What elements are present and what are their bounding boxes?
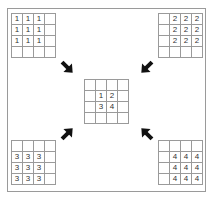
grid-cell xyxy=(170,141,181,152)
grid-cell xyxy=(107,113,118,124)
grid-cell xyxy=(12,141,23,152)
grid-cell: 1 xyxy=(12,14,23,25)
grid-cell xyxy=(192,47,203,58)
grid-cell: 4 xyxy=(170,163,181,174)
grid-cell xyxy=(181,141,192,152)
grid-cell xyxy=(45,152,56,163)
arrow-up-left-icon xyxy=(138,125,156,143)
grid-cell: 3 xyxy=(23,163,34,174)
grid-cell xyxy=(159,36,170,47)
grid-cell xyxy=(45,14,56,25)
grid-cell xyxy=(96,113,107,124)
grid-cell: 3 xyxy=(12,163,23,174)
grid-cell: 2 xyxy=(170,14,181,25)
grid-cell: 1 xyxy=(96,91,107,102)
grid-cell: 2 xyxy=(181,25,192,36)
grid-cell: 4 xyxy=(192,174,203,185)
arrow-up-right-icon xyxy=(58,125,76,143)
grid-top-left: 111111111 xyxy=(11,13,56,58)
grid-cell xyxy=(85,113,96,124)
grid-cell xyxy=(192,141,203,152)
grid-cell xyxy=(159,25,170,36)
grid-cell: 3 xyxy=(12,152,23,163)
grid-cell xyxy=(159,152,170,163)
grid-cell: 2 xyxy=(181,14,192,25)
grid-cell: 2 xyxy=(192,25,203,36)
grid-cell: 2 xyxy=(107,91,118,102)
grid-cell xyxy=(118,113,129,124)
grid-bottom-left: 333333333 xyxy=(11,140,56,185)
grid-cell: 2 xyxy=(170,36,181,47)
grid-cell xyxy=(45,47,56,58)
grid-cell: 1 xyxy=(23,14,34,25)
grid-cell: 3 xyxy=(23,152,34,163)
arrow-down-left-icon xyxy=(138,58,156,76)
grid-cell xyxy=(45,36,56,47)
grid-cell: 3 xyxy=(34,174,45,185)
grid-top-right: 222222222 xyxy=(158,13,203,58)
grid-cell xyxy=(96,80,107,91)
grid-cell xyxy=(45,174,56,185)
grid-cell: 4 xyxy=(170,174,181,185)
grid-cell xyxy=(159,47,170,58)
grid-cell: 3 xyxy=(34,163,45,174)
grid-cell: 3 xyxy=(12,174,23,185)
arrow-down-right-icon xyxy=(58,58,76,76)
grid-cell xyxy=(12,47,23,58)
grid-cell: 2 xyxy=(192,14,203,25)
grid-cell xyxy=(159,163,170,174)
grid-cell xyxy=(23,141,34,152)
grid-cell: 1 xyxy=(34,36,45,47)
grid-cell: 4 xyxy=(107,102,118,113)
grid-cell xyxy=(159,141,170,152)
grid-cell: 3 xyxy=(96,102,107,113)
grid-cell: 2 xyxy=(192,36,203,47)
grid-cell xyxy=(45,163,56,174)
grid-cell xyxy=(23,47,34,58)
grid-cell xyxy=(45,141,56,152)
grid-cell xyxy=(85,91,96,102)
grid-cell: 2 xyxy=(170,25,181,36)
grid-cell xyxy=(107,80,118,91)
grid-cell: 4 xyxy=(181,174,192,185)
grid-cell xyxy=(170,47,181,58)
grid-cell: 1 xyxy=(23,25,34,36)
grid-cell: 1 xyxy=(23,36,34,47)
grid-cell: 3 xyxy=(23,174,34,185)
grid-cell: 3 xyxy=(34,152,45,163)
grid-cell: 1 xyxy=(34,14,45,25)
grid-cell xyxy=(34,141,45,152)
grid-cell xyxy=(118,102,129,113)
grid-cell xyxy=(85,80,96,91)
grid-cell xyxy=(34,47,45,58)
grid-center: 1234 xyxy=(84,79,129,124)
grid-cell: 1 xyxy=(12,36,23,47)
grid-cell xyxy=(45,25,56,36)
grid-bottom-right: 444444444 xyxy=(158,140,203,185)
grid-cell: 4 xyxy=(181,163,192,174)
grid-cell xyxy=(85,102,96,113)
grid-cell: 2 xyxy=(181,36,192,47)
grid-cell xyxy=(118,91,129,102)
grid-cell xyxy=(159,174,170,185)
grid-cell xyxy=(181,47,192,58)
grid-cell: 4 xyxy=(192,152,203,163)
grid-cell: 4 xyxy=(170,152,181,163)
grid-cell: 1 xyxy=(12,25,23,36)
grid-cell: 4 xyxy=(181,152,192,163)
grid-cell: 4 xyxy=(192,163,203,174)
grid-cell xyxy=(159,14,170,25)
grid-cell: 1 xyxy=(34,25,45,36)
grid-cell xyxy=(118,80,129,91)
